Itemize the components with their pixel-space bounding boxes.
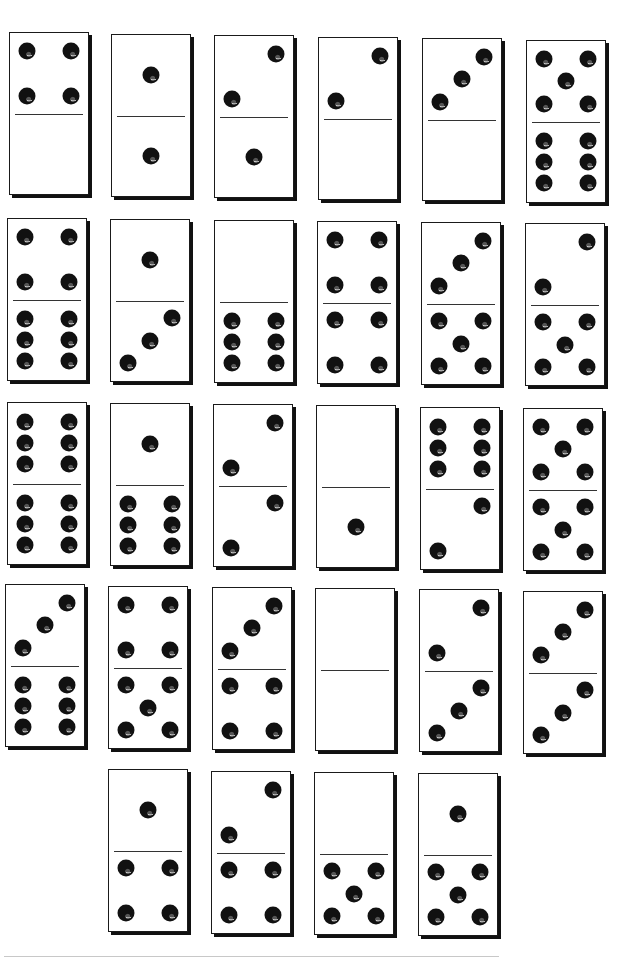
domino-divider [13, 300, 81, 301]
domino-half-top [6, 585, 84, 666]
pip-icon [453, 335, 470, 352]
pip-icon [244, 620, 261, 637]
domino-3-4 [212, 587, 292, 750]
pip-icon [17, 536, 34, 553]
pip-icon [533, 463, 550, 480]
pip-icon [370, 276, 387, 293]
domino-half-top [315, 773, 393, 854]
pip-icon [17, 414, 34, 431]
pip-icon [142, 436, 159, 453]
pip-icon [224, 90, 241, 107]
domino-half-bottom [315, 854, 393, 935]
pip-icon [15, 676, 32, 693]
domino-half-bottom [214, 486, 292, 567]
pip-icon [60, 494, 77, 511]
pip-icon [576, 418, 593, 435]
pip-icon [163, 310, 180, 327]
domino-divider [529, 673, 597, 674]
pip-icon [450, 886, 467, 903]
pip-icon [17, 515, 34, 532]
domino-half-top [420, 590, 498, 671]
pip-icon [533, 727, 550, 744]
pip-icon [327, 231, 344, 248]
pip-icon [576, 544, 593, 561]
domino-divider [218, 669, 286, 670]
pip-icon [19, 42, 36, 59]
domino-half-top [212, 772, 290, 853]
domino-divider [427, 304, 495, 305]
domino-4-0 [9, 32, 89, 195]
pip-icon [579, 174, 596, 191]
domino-0-0 [315, 588, 395, 751]
pip-icon [142, 332, 159, 349]
pip-icon [430, 419, 447, 436]
pip-icon [60, 515, 77, 532]
pip-icon [430, 461, 447, 478]
domino-5-5 [523, 408, 603, 571]
pip-icon [579, 95, 596, 112]
domino-half-bottom [6, 666, 84, 747]
domino-5-6 [526, 40, 606, 203]
domino-divider [321, 670, 389, 671]
domino-divider [220, 117, 288, 118]
pip-icon [161, 905, 178, 922]
pip-icon [533, 544, 550, 561]
pip-icon [348, 518, 365, 535]
pip-icon [367, 863, 384, 880]
pip-icon [60, 435, 77, 452]
pip-icon [429, 725, 446, 742]
domino-2-5 [525, 223, 605, 386]
pip-icon [58, 594, 75, 611]
domino-1-3 [110, 219, 190, 382]
pip-icon [327, 312, 344, 329]
pip-icon [324, 863, 341, 880]
domino-half-top [112, 35, 190, 116]
pip-icon [140, 699, 157, 716]
pip-icon [17, 494, 34, 511]
pip-icon [474, 232, 491, 249]
domino-half-top [109, 770, 187, 851]
domino-3-6 [5, 584, 85, 747]
pip-icon [328, 92, 345, 109]
pip-icon [60, 414, 77, 431]
pip-icon [454, 71, 471, 88]
pip-icon [163, 537, 180, 554]
domino-divider [219, 486, 287, 487]
domino-4-4 [317, 221, 397, 384]
domino-2-2 [213, 404, 293, 567]
pip-icon [430, 543, 447, 560]
pip-icon [555, 624, 572, 641]
pip-icon [17, 352, 34, 369]
domino-divider [116, 485, 184, 486]
domino-half-bottom [420, 671, 498, 752]
domino-half-bottom [317, 487, 395, 568]
domino-6-2 [420, 407, 500, 570]
pip-icon [60, 331, 77, 348]
pip-icon [535, 314, 552, 331]
pip-icon [17, 331, 34, 348]
domino-divider [217, 853, 285, 854]
domino-3-3 [523, 591, 603, 754]
pip-icon [120, 537, 137, 554]
pip-icon [428, 864, 445, 881]
pip-icon [17, 273, 34, 290]
domino-half-bottom [109, 851, 187, 932]
pip-icon [370, 357, 387, 374]
domino-divider [116, 301, 184, 302]
pip-icon [576, 682, 593, 699]
domino-half-bottom [423, 120, 501, 201]
pip-icon [267, 312, 284, 329]
domino-divider [424, 855, 492, 856]
domino-half-top [527, 41, 605, 122]
domino-divider [117, 116, 185, 117]
domino-half-top [317, 406, 395, 487]
domino-4-6 [7, 218, 87, 381]
pip-icon [471, 909, 488, 926]
pip-icon [224, 312, 241, 329]
pip-icon [371, 47, 388, 64]
pip-icon [431, 313, 448, 330]
pip-icon [266, 414, 283, 431]
pip-icon [536, 50, 553, 67]
domino-half-bottom [316, 670, 394, 751]
pip-icon [472, 599, 489, 616]
